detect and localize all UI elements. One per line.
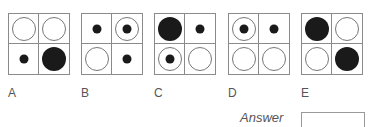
- grid-cell: [155, 14, 185, 44]
- grid-cell: [9, 14, 39, 44]
- grid-cell: [332, 14, 362, 44]
- grid-cell: [302, 14, 332, 44]
- open-circle-icon: [42, 17, 66, 41]
- open-circle-icon: [335, 17, 359, 41]
- small-dot-icon: [19, 55, 28, 64]
- filled-circle-icon: [335, 47, 359, 71]
- option-d-grid[interactable]: [228, 13, 290, 75]
- grid-cell: [229, 14, 259, 44]
- option-label: A: [8, 86, 16, 100]
- grid-cell: [82, 14, 112, 44]
- small-dot-icon: [123, 55, 132, 64]
- grid-cell: [185, 14, 215, 44]
- grid-cell: [259, 44, 289, 74]
- open-circle-icon: [262, 47, 286, 71]
- small-dot-icon: [92, 24, 101, 33]
- option-e-grid[interactable]: [301, 13, 363, 75]
- option-c-grid[interactable]: [154, 13, 216, 75]
- grid-cell: [229, 44, 259, 74]
- grid-cell: [155, 44, 185, 74]
- open-circle-icon: [305, 47, 329, 71]
- open-circle-icon: [12, 17, 36, 41]
- circle-with-dot-icon: [158, 47, 182, 71]
- grid-cell: [332, 44, 362, 74]
- option-b-grid[interactable]: [81, 13, 143, 75]
- grid-cell: [185, 44, 215, 74]
- grid-cell: [9, 44, 39, 74]
- grid-cell: [259, 14, 289, 44]
- option-label: C: [154, 86, 163, 100]
- filled-circle-icon: [305, 17, 329, 41]
- grid-cell: [112, 44, 142, 74]
- small-dot-icon: [270, 24, 279, 33]
- open-circle-icon: [232, 47, 256, 71]
- filled-circle-icon: [42, 47, 66, 71]
- answer-label: Answer: [240, 110, 283, 125]
- open-circle-icon: [85, 47, 109, 71]
- option-label: B: [81, 86, 89, 100]
- grid-cell: [39, 44, 69, 74]
- grid-cell: [112, 14, 142, 44]
- circle-with-dot-icon: [115, 17, 139, 41]
- answer-input[interactable]: [301, 112, 365, 127]
- filled-circle-icon: [158, 17, 182, 41]
- option-label: D: [228, 86, 237, 100]
- open-circle-icon: [188, 47, 212, 71]
- grid-cell: [82, 44, 112, 74]
- option-label: E: [301, 86, 309, 100]
- circle-with-dot-icon: [232, 17, 256, 41]
- option-a-grid[interactable]: [8, 13, 70, 75]
- small-dot-icon: [196, 24, 205, 33]
- grid-cell: [39, 14, 69, 44]
- grid-cell: [302, 44, 332, 74]
